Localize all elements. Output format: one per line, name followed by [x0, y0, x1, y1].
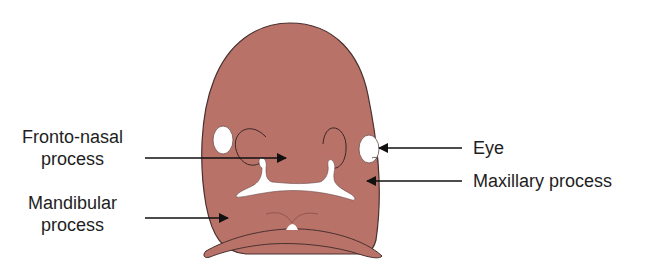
right-eye: [359, 135, 379, 163]
label-maxillary-process: Maxillary process: [473, 170, 612, 192]
label-eye: Eye: [473, 137, 504, 159]
label-eye-text: Eye: [473, 137, 504, 159]
label-maxillary-text: Maxillary process: [473, 170, 612, 192]
label-mandibular-process: Mandibular process: [28, 192, 117, 236]
left-eye: [213, 126, 233, 154]
label-mandibular-line2: process: [28, 214, 117, 236]
label-fronto-nasal-line2: process: [22, 148, 123, 170]
label-fronto-nasal-process: Fronto-nasal process: [22, 126, 123, 170]
label-mandibular-line1: Mandibular: [28, 192, 117, 214]
label-fronto-nasal-line1: Fronto-nasal: [22, 126, 123, 148]
